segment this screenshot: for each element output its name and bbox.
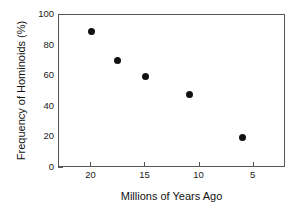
y-axis-tick-label: 60 [14, 70, 54, 80]
y-axis-tick-label: 100 [14, 9, 54, 19]
data-point [114, 57, 121, 64]
x-axis-tick [144, 162, 145, 167]
plot-area [58, 14, 285, 167]
y-axis-tick-label: 80 [14, 40, 54, 50]
y-axis-tick [58, 167, 63, 168]
x-axis-tick-label: 20 [75, 170, 105, 180]
chart-figure: Frequency of Hominoids (%) 020406080100 … [0, 0, 297, 218]
y-axis-tick-label: 0 [14, 162, 54, 172]
y-axis-label: Frequency of Hominoids (%) [14, 14, 28, 167]
x-axis-tick [90, 162, 91, 167]
x-axis-tick-label: 15 [129, 170, 159, 180]
y-axis-tick-label: 40 [14, 101, 54, 111]
x-axis-tick [199, 162, 200, 167]
x-axis-tick-label: 10 [184, 170, 214, 180]
data-point [239, 134, 246, 141]
x-axis-tick-label: 5 [238, 170, 268, 180]
x-axis-tick [253, 162, 254, 167]
data-point [88, 28, 95, 35]
x-axis-tick-label: 0 [292, 170, 297, 180]
x-axis-label: Millions of Years Ago [58, 190, 285, 202]
data-point [186, 91, 193, 98]
data-point [142, 73, 149, 80]
y-axis-tick-label: 20 [14, 131, 54, 141]
